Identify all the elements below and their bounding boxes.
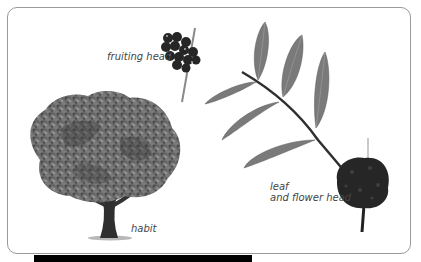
bottom-bar <box>34 255 252 262</box>
fruiting-head-illustration <box>161 28 201 102</box>
habit-label: habit <box>131 223 157 235</box>
botanical-illustrations <box>0 0 421 262</box>
fruiting-head-label: fruiting head <box>107 51 171 63</box>
flower-head-label: and flower head <box>270 192 351 204</box>
tree-habit-illustration <box>30 91 180 241</box>
pinnate-leaf-illustration <box>205 22 345 172</box>
flower-head-illustration <box>337 138 389 232</box>
